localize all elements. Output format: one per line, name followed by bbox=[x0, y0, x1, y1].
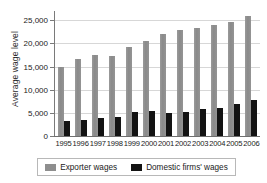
x-tick-label: 2006 bbox=[243, 139, 260, 148]
bar-domestic-firms-wages bbox=[234, 104, 240, 136]
bar-domestic-firms-wages bbox=[98, 118, 104, 136]
legend-item: Domestic firms' wages bbox=[131, 163, 228, 172]
y-axis-title: Average wage level bbox=[8, 9, 22, 129]
bar-chart-figure: Average wage level 05,00010,00015,00020,… bbox=[0, 0, 267, 183]
bar-group bbox=[55, 11, 72, 136]
bar-group bbox=[192, 11, 209, 136]
x-tick-label: 1999 bbox=[123, 139, 140, 148]
bar-domestic-firms-wages bbox=[115, 117, 121, 136]
y-tick-mark bbox=[50, 90, 54, 91]
bar-domestic-firms-wages bbox=[166, 113, 172, 136]
y-tick-label: 25,000 bbox=[24, 16, 48, 25]
bar-domestic-firms-wages bbox=[81, 120, 87, 136]
legend-swatch-exporter bbox=[45, 164, 56, 171]
bar-domestic-firms-wages bbox=[183, 112, 189, 136]
y-tick-mark bbox=[50, 136, 54, 137]
legend-label: Exporter wages bbox=[60, 163, 117, 172]
bar-series-container bbox=[55, 11, 260, 136]
x-axis-line bbox=[54, 136, 260, 137]
bar-domestic-firms-wages bbox=[64, 121, 70, 136]
bar-group bbox=[106, 11, 123, 136]
x-tick-label: 2002 bbox=[175, 139, 192, 148]
y-tick-label: 15,000 bbox=[24, 62, 48, 71]
bar-group bbox=[175, 11, 192, 136]
y-tick-mark bbox=[50, 20, 54, 21]
bar-group bbox=[157, 11, 174, 136]
bar-group bbox=[123, 11, 140, 136]
bar-domestic-firms-wages bbox=[217, 108, 223, 136]
x-tick-label: 2001 bbox=[157, 139, 174, 148]
legend-swatch-domestic bbox=[131, 164, 142, 171]
bar-group bbox=[209, 11, 226, 136]
x-tick-label: 1998 bbox=[106, 139, 123, 148]
bar-group bbox=[140, 11, 157, 136]
bar-domestic-firms-wages bbox=[200, 109, 206, 136]
y-tick-label: 0 bbox=[44, 132, 48, 141]
plot-area: 05,00010,00015,00020,00025,000 bbox=[54, 11, 260, 137]
x-tick-label: 2003 bbox=[192, 139, 209, 148]
bar-domestic-firms-wages bbox=[149, 111, 155, 136]
chart-legend: Exporter wagesDomestic firms' wages bbox=[37, 158, 236, 176]
bar-group bbox=[72, 11, 89, 136]
bar-domestic-firms-wages bbox=[251, 100, 257, 136]
bar-group bbox=[89, 11, 106, 136]
bar-domestic-firms-wages bbox=[132, 112, 138, 136]
x-axis-tick-labels: 1995199619971998199920002001200220032004… bbox=[55, 139, 260, 148]
y-tick-mark bbox=[50, 43, 54, 44]
y-tick-label: 10,000 bbox=[24, 85, 48, 94]
bar-group bbox=[226, 11, 243, 136]
x-tick-label: 2005 bbox=[226, 139, 243, 148]
bar-group bbox=[243, 11, 260, 136]
y-tick-label: 5,000 bbox=[28, 108, 48, 117]
x-tick-label: 1997 bbox=[89, 139, 106, 148]
y-tick-label: 20,000 bbox=[24, 39, 48, 48]
x-tick-label: 2004 bbox=[209, 139, 226, 148]
legend-item: Exporter wages bbox=[45, 163, 117, 172]
y-tick-mark bbox=[50, 113, 54, 114]
x-tick-label: 1996 bbox=[72, 139, 89, 148]
x-tick-label: 2000 bbox=[140, 139, 157, 148]
x-tick-label: 1995 bbox=[55, 139, 72, 148]
legend-label: Domestic firms' wages bbox=[146, 163, 228, 172]
y-tick-mark bbox=[50, 67, 54, 68]
